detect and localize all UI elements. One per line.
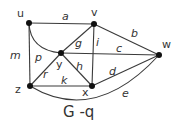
vertex-label-x: x — [82, 86, 89, 99]
vertex-label-v: v — [91, 6, 98, 19]
vertex-x — [89, 83, 95, 89]
edge-label-b: b — [131, 27, 138, 40]
edge-d — [92, 55, 159, 86]
vertex-u — [26, 20, 32, 26]
graph-caption: G -q — [63, 103, 94, 121]
edge-b — [94, 24, 159, 55]
edge-label-r: r — [43, 68, 49, 81]
edge-label-p: p — [34, 51, 42, 64]
edge-label-e: e — [122, 87, 129, 100]
edge-label-i: i — [96, 36, 99, 49]
vertex-label-z: z — [15, 83, 21, 96]
edge-label-k: k — [61, 74, 68, 87]
vertex-label-y: y — [56, 58, 63, 71]
edge-label-g: g — [75, 37, 82, 50]
edge-label-m: m — [10, 49, 21, 62]
edge-e — [30, 55, 159, 100]
edge-i — [92, 24, 94, 86]
vertex-label-u: u — [17, 7, 24, 20]
vertex-v — [91, 21, 97, 27]
vertex-w — [156, 52, 162, 58]
edge-c — [61, 53, 159, 55]
vertex-y — [58, 50, 64, 56]
edge-a — [29, 23, 94, 24]
edge-label-h: h — [76, 60, 83, 73]
edge-m — [29, 23, 30, 86]
edge-label-c: c — [116, 42, 122, 55]
vertex-label-w: w — [162, 38, 171, 51]
edge-label-d: d — [109, 65, 117, 78]
vertex-z — [27, 83, 33, 89]
graph-diagram: u v w y z x a b c d e g i h k r m p G -q — [0, 0, 178, 130]
edge-p — [29, 23, 61, 53]
edge-label-a: a — [62, 10, 69, 23]
